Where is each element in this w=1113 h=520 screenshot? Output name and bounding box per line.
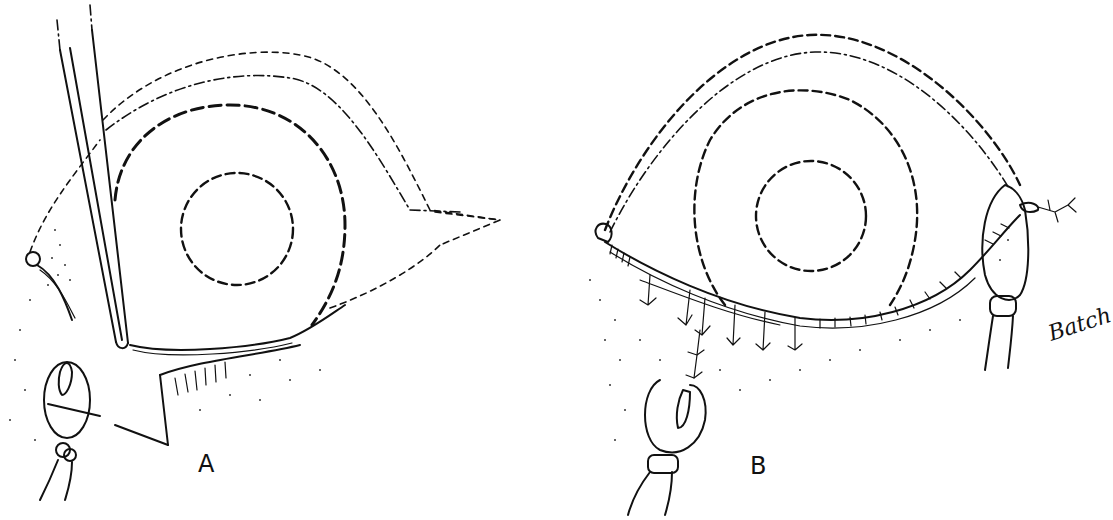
panel-a-pupil	[181, 173, 293, 285]
panel-b-limbus	[694, 90, 917, 305]
panel-b-lid-margin-line	[640, 280, 780, 325]
surgical-illustration: A B Batch	[0, 0, 1113, 520]
panel-b-lid-margin	[605, 215, 1020, 320]
panel-a-upper-lid-inner	[106, 76, 460, 212]
panel-a-lateral-canthus	[435, 212, 500, 245]
panel-b-upper-lid-outer	[605, 35, 1020, 230]
panel-b-drawing	[589, 35, 1076, 515]
panel-b-sutures	[640, 275, 802, 350]
panel-a-everted-lid-bottom	[115, 425, 168, 445]
panel-b-label: B	[750, 452, 766, 480]
panel-a-upper-lid-outer	[103, 52, 500, 220]
panel-a-limbus	[115, 105, 345, 325]
panel-a-stippling	[9, 229, 321, 441]
panel-a-forceps	[57, 5, 128, 348]
panel-a-medial-margin-inner	[40, 270, 75, 318]
panel-b-caruncle	[596, 224, 612, 242]
panel-a-lid-margin	[130, 305, 345, 350]
panel-a-drawing	[9, 5, 500, 500]
panel-a-lower-lid-lateral	[330, 245, 440, 308]
panel-a-caruncle	[26, 252, 40, 266]
panel-b-lateral-suture	[1038, 198, 1076, 222]
panel-b-upper-lid-inner	[610, 52, 1010, 232]
panel-a-medial-margin	[37, 265, 72, 320]
panel-b-pupil	[756, 161, 866, 271]
panel-a-label: A	[198, 450, 214, 478]
panel-a-clamp	[40, 362, 100, 500]
panel-b-medial-clamp	[628, 380, 706, 515]
panel-a-everted-lid-edge	[160, 375, 168, 445]
illustration-canvas	[0, 0, 1113, 520]
